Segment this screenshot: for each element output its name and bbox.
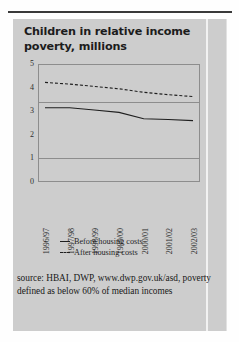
legend-label: After housing costs	[74, 248, 138, 257]
y-tick-label: 3	[20, 106, 34, 115]
chart-area: 012345	[18, 60, 210, 182]
column-rule-secondary	[226, 19, 227, 331]
figure-page: Children in relative income poverty, mil…	[0, 0, 239, 342]
series-lines	[38, 64, 200, 182]
top-divider	[8, 11, 232, 13]
legend-item: After housing costs	[60, 247, 210, 258]
source-note: source: HBAI, DWP, www.dwp.gov.uk/asd, p…	[17, 272, 213, 298]
chart-title: Children in relative income poverty, mil…	[24, 25, 202, 54]
x-axis-labels: 1996/971997/981998/991999/002000/012001/…	[18, 184, 210, 232]
legend-label: Before housing costs	[74, 237, 143, 246]
solid-line-icon	[60, 238, 70, 245]
y-tick-label: 2	[20, 130, 34, 139]
legend-item: Before housing costs	[60, 236, 210, 247]
chart-legend: Before housing costsAfter housing costs	[60, 236, 210, 258]
y-tick-label: 1	[20, 153, 34, 162]
y-tick-label: 5	[20, 59, 34, 68]
y-tick-label: 4	[20, 83, 34, 92]
dashed-line-icon	[60, 249, 70, 256]
series-line	[45, 82, 193, 96]
x-tick-label: 1996/97	[42, 228, 51, 254]
series-line	[45, 108, 193, 121]
